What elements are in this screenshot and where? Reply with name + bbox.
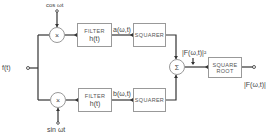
- bottom-multiplier: ×: [50, 92, 66, 108]
- bottom-filter-box: FILTER h(t): [78, 88, 112, 112]
- bottom-signal-label: b(ω,t): [113, 90, 131, 97]
- top-squarer-box: SQUARER: [133, 23, 166, 47]
- bottom-filter-sub: h(t): [90, 100, 101, 107]
- top-filter-sub: h(t): [89, 35, 100, 42]
- sin-carrier-label: sin ωt: [47, 126, 65, 133]
- top-multiplier: ×: [49, 27, 65, 43]
- square-root-box: SQUARE ROOT: [208, 57, 242, 78]
- cos-carrier-label: cos ωt: [46, 2, 63, 8]
- input-label: f(t): [2, 64, 11, 71]
- output-label: |F(ω,t)|: [244, 81, 266, 88]
- top-filter-box: FILTER h(t): [77, 23, 112, 47]
- bottom-filter-title: FILTER: [85, 93, 105, 99]
- top-signal-label: a(ω,t): [113, 26, 131, 33]
- sum-output-label: |F(ω,t)|²: [182, 49, 206, 56]
- bottom-squarer-box: SQUARER: [133, 88, 166, 112]
- summing-junction: Σ: [169, 59, 185, 75]
- sqrt-line2: ROOT: [216, 68, 233, 74]
- top-squarer-label: SQUARER: [135, 32, 164, 38]
- top-filter-title: FILTER: [84, 28, 104, 34]
- bottom-squarer-label: SQUARER: [135, 97, 164, 103]
